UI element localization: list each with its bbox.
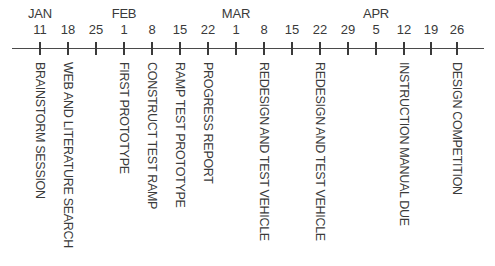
event-label: REDESIGN AND TEST VEHICLE	[313, 62, 327, 241]
tick-mark	[207, 42, 209, 55]
tick-mark	[123, 42, 125, 55]
tick-mark	[347, 42, 349, 55]
tick-mark	[430, 42, 432, 55]
event-label: BRAINSTORM SESSION	[33, 62, 47, 199]
event-label: RAMP TEST PROTOTYPE	[173, 62, 187, 208]
event-label: REDESIGN AND TEST VEHICLE	[257, 62, 271, 241]
month-label: JAN	[28, 6, 52, 21]
tick-mark	[375, 42, 377, 55]
day-label: 22	[313, 22, 327, 37]
day-label: 8	[260, 22, 267, 37]
event-label: WEB AND LITERATURE SEARCH	[61, 62, 75, 248]
month-label: MAR	[222, 6, 250, 21]
day-label: 11	[33, 22, 47, 37]
day-label: 15	[173, 22, 187, 37]
day-label: 15	[285, 22, 299, 37]
day-label: 1	[120, 22, 127, 37]
day-label: 1	[232, 22, 239, 37]
tick-mark	[263, 42, 265, 55]
tick-mark	[456, 42, 458, 55]
day-label: 5	[372, 22, 379, 37]
day-label: 26	[450, 22, 464, 37]
day-label: 18	[61, 22, 75, 37]
event-label: INSTRUCTION MANUAL DUE	[397, 62, 411, 226]
day-label: 25	[89, 22, 103, 37]
event-label: FIRST PROTOTYPE	[117, 62, 131, 174]
tick-mark	[151, 42, 153, 55]
timeline-axis	[12, 48, 484, 49]
tick-mark	[95, 42, 97, 55]
day-label: 12	[397, 22, 411, 37]
tick-mark	[319, 42, 321, 55]
event-label: PROGRESS REPORT	[201, 62, 215, 184]
tick-mark	[403, 42, 405, 55]
day-label: 29	[341, 22, 355, 37]
tick-mark	[179, 42, 181, 55]
day-label: 19	[424, 22, 438, 37]
day-label: 22	[201, 22, 215, 37]
project-timeline: JANFEBMARAPR 111825181522181522295121926…	[0, 0, 495, 266]
event-label: CONSTRUCT TEST RAMP	[145, 62, 159, 209]
tick-mark	[291, 42, 293, 55]
month-label: APR	[363, 6, 389, 21]
day-label: 8	[148, 22, 155, 37]
tick-mark	[39, 42, 41, 55]
tick-mark	[67, 42, 69, 55]
month-label: FEB	[112, 6, 137, 21]
event-label: DESIGN COMPETITION	[450, 62, 464, 195]
tick-mark	[235, 42, 237, 55]
